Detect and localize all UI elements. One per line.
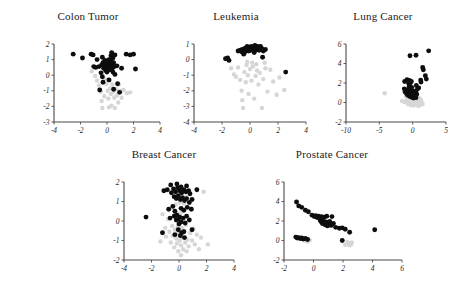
y-tick-label: 6 [276,178,280,187]
data-point [176,249,180,253]
data-point [408,53,413,58]
data-point [184,249,188,253]
data-point [188,191,193,196]
y-tick-label: -1 [43,86,49,95]
data-point [418,97,422,101]
y-axis-ticks: -3-2-1012 [43,40,54,127]
data-point [121,88,125,92]
data-point [343,227,348,232]
plot-area: -20246-10-505 [310,10,456,138]
x-axis-ticks: -10-505 [341,122,448,135]
axes [284,182,402,260]
data-point [97,83,101,87]
data-point [409,79,414,84]
data-point [102,94,106,98]
data-point [176,227,181,232]
y-tick-label: -2 [183,86,189,95]
data-point [100,106,104,110]
x-tick-label: -4 [191,126,197,135]
x-tick-label: -4 [121,264,127,273]
y-tick-label: 0 [116,217,120,226]
y-tick-label: 0 [276,236,280,245]
data-point [263,66,267,70]
data-point [246,73,250,77]
data-point [167,230,171,234]
data-point [234,75,238,79]
data-point [372,227,377,232]
data-point [113,52,118,57]
data-point [265,89,269,93]
x-tick-label: 2 [205,264,209,273]
y-tick-label: 2 [46,40,50,49]
data-point [250,61,254,65]
x-tick-label: -2 [219,126,225,135]
data-point [263,47,268,52]
x-tick-label: 4 [304,126,308,135]
x-tick-label: 5 [444,126,448,135]
data-point [183,221,188,226]
scatter-panel-colon-tumor: Colon Tumor-3-2-1012-4-2024 [14,10,162,138]
y-tick-label: -1 [113,236,119,245]
data-point [113,72,118,77]
plot-area: -4-3-2-101-4-2024 [162,10,310,138]
data-point [133,67,138,72]
x-axis-ticks: -4-2024 [51,122,162,135]
data-point [189,207,194,212]
data-point [187,218,192,223]
y-tick-label: -4 [183,118,189,127]
data-point [170,204,175,209]
data-point [252,96,256,100]
data-point [263,61,267,65]
y-axis-ticks: -20246 [335,40,346,127]
data-point [95,78,99,82]
plot-area: -20246-20246 [248,148,416,276]
y-tick-label: 4 [276,197,280,206]
x-tick-label: 4 [232,264,236,273]
y-tick-label: 1 [186,40,190,49]
data-point [229,66,233,70]
data-point [186,244,190,248]
y-tick-label: 1 [46,55,50,64]
data-point [172,245,176,249]
data-point [144,215,149,220]
y-axis-ticks: -20246 [273,178,284,265]
data-point [343,243,347,247]
data-point [282,88,286,92]
data-point [350,240,354,244]
data-point [419,80,424,85]
data-point [93,65,98,70]
y-tick-label: -2 [113,256,119,265]
y-axis-ticks: -4-3-2-101 [183,40,194,127]
data-point [190,197,195,202]
data-point [305,237,310,242]
data-point [256,82,260,86]
x-axis-ticks: -20246 [281,260,404,273]
y-tick-label: 0 [186,55,190,64]
data-point [195,232,199,236]
y-tick-label: 0 [46,71,50,80]
y-tick-label: -2 [43,102,49,111]
x-tick-label: -2 [281,264,287,273]
data-point [170,224,174,228]
scatter-panel-prostate-cancer: Prostate Cancer-20246-20246 [248,148,416,276]
x-axis-ticks: -4-2024 [191,122,308,135]
data-point [277,75,281,79]
y-tick-label: 6 [338,40,342,49]
x-tick-label: 0 [248,126,252,135]
data-point [283,70,288,75]
y-tick-label: -2 [273,256,279,265]
data-point [245,60,249,64]
series-class_a [293,200,377,243]
data-point [110,82,114,86]
data-point [261,77,265,81]
data-point [71,52,76,57]
data-point [260,106,264,110]
x-tick-label: 2 [132,126,136,135]
x-axis-ticks: -4-2024 [121,260,236,273]
y-axis-ticks: -2-1012 [113,178,124,265]
axes [194,44,306,122]
data-point [91,52,96,57]
x-tick-label: -2 [77,126,83,135]
x-tick-label: 2 [341,264,345,273]
data-point [113,106,117,110]
